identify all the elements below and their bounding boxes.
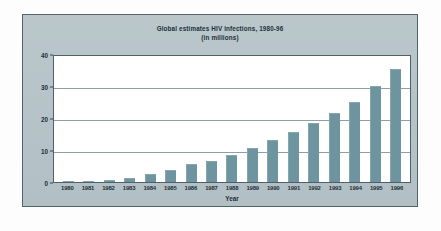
- bar-1983[interactable]: [124, 178, 135, 182]
- y-tick-30: 30: [41, 84, 53, 91]
- y-tick-mark: [50, 87, 53, 88]
- bar-slot: [263, 56, 283, 182]
- bar-slot: [119, 56, 139, 182]
- bar-slot: [386, 56, 406, 182]
- bar-1986[interactable]: [186, 164, 197, 182]
- bar-slot: [222, 56, 242, 182]
- y-tick-label: 20: [41, 116, 50, 123]
- bar-1985[interactable]: [165, 170, 176, 182]
- y-tick-mark: [50, 183, 53, 184]
- x-tick-label-1981: 1981: [78, 185, 99, 191]
- bar-1989[interactable]: [247, 148, 258, 182]
- x-tick-label-1987: 1987: [201, 185, 222, 191]
- chart-panel: Global estimates HIV infections, 1980-96…: [22, 14, 418, 207]
- x-tick-label-1990: 1990: [263, 185, 284, 191]
- chart-figure: Global estimates HIV infections, 1980-96…: [0, 0, 441, 231]
- x-tick-label-1983: 1983: [119, 185, 140, 191]
- y-tick-20: 20: [41, 116, 53, 123]
- bar-series: [54, 56, 410, 182]
- y-tick-40: 40: [41, 52, 53, 59]
- y-tick-10: 10: [41, 148, 53, 155]
- y-tick-mark: [50, 55, 53, 56]
- bar-1984[interactable]: [145, 174, 156, 182]
- bar-slot: [365, 56, 385, 182]
- bar-slot: [140, 56, 160, 182]
- x-tick-label-1982: 1982: [98, 185, 119, 191]
- bar-1993[interactable]: [329, 113, 340, 182]
- bar-slot: [242, 56, 262, 182]
- bar-slot: [181, 56, 201, 182]
- bar-slot: [283, 56, 303, 182]
- x-tick-label-1992: 1992: [304, 185, 325, 191]
- bar-1995[interactable]: [370, 86, 381, 182]
- chart-title-block: Global estimates HIV infections, 1980-96…: [23, 24, 417, 42]
- x-tick-label-1991: 1991: [284, 185, 305, 191]
- y-tick-0: 0: [44, 180, 53, 187]
- bar-1982[interactable]: [104, 180, 115, 182]
- bar-1990[interactable]: [267, 140, 278, 182]
- bar-1987[interactable]: [206, 161, 217, 182]
- bar-slot: [324, 56, 344, 182]
- y-tick-label: 40: [41, 52, 50, 59]
- x-tick-label-1994: 1994: [345, 185, 366, 191]
- bar-1994[interactable]: [349, 102, 360, 182]
- x-tick-label-1995: 1995: [366, 185, 387, 191]
- x-tick-label-1996: 1996: [387, 185, 408, 191]
- bar-slot: [160, 56, 180, 182]
- bar-slot: [78, 56, 98, 182]
- x-axis: 1980198119821983198419851986198719881989…: [53, 185, 411, 191]
- bar-slot: [201, 56, 221, 182]
- bar-1992[interactable]: [308, 123, 319, 182]
- x-tick-label-1984: 1984: [139, 185, 160, 191]
- bar-slot: [345, 56, 365, 182]
- bar-1981[interactable]: [83, 181, 94, 182]
- x-tick-label-1980: 1980: [57, 185, 78, 191]
- chart-subtitle: (in millions): [23, 33, 417, 42]
- x-tick-label-1986: 1986: [181, 185, 202, 191]
- bar-1996[interactable]: [390, 69, 401, 182]
- x-tick-label-1989: 1989: [242, 185, 263, 191]
- x-tick-label-1993: 1993: [325, 185, 346, 191]
- bar-1980[interactable]: [63, 181, 74, 182]
- x-axis-title: Year: [53, 195, 411, 202]
- bar-slot: [58, 56, 78, 182]
- y-tick-label: 30: [41, 84, 50, 91]
- bar-1988[interactable]: [226, 155, 237, 182]
- y-axis: 010203040: [23, 55, 53, 183]
- y-tick-mark: [50, 151, 53, 152]
- bar-slot: [99, 56, 119, 182]
- y-tick-label: 10: [41, 148, 50, 155]
- bar-1991[interactable]: [288, 132, 299, 182]
- plot-area: [53, 55, 411, 183]
- bar-slot: [304, 56, 324, 182]
- x-tick-label-1985: 1985: [160, 185, 181, 191]
- chart-title: Global estimates HIV infections, 1980-96: [23, 24, 417, 33]
- x-tick-label-1988: 1988: [222, 185, 243, 191]
- y-tick-mark: [50, 119, 53, 120]
